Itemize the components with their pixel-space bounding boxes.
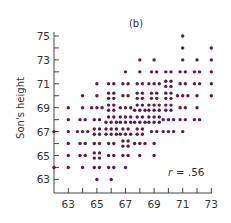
data-point [104,121,107,124]
data-point [150,97,153,100]
data-point [124,70,127,73]
data-point [67,118,70,121]
data-point [107,82,110,85]
data-point [198,118,201,121]
data-point [193,82,196,85]
data-point [150,91,153,94]
data-point [84,154,87,157]
data-point [81,166,84,169]
data-point [133,142,136,145]
data-point [150,130,153,133]
data-point [112,154,115,157]
data-point [100,106,103,109]
data-point [112,103,115,106]
data-point [98,151,101,154]
data-point [95,94,98,97]
data-point [129,133,132,136]
data-point [95,82,98,85]
x-tick-label: 63 [62,198,75,210]
data-point [178,118,181,121]
data-point [184,82,187,85]
data-point [152,142,155,145]
data-point [141,91,144,94]
data-point [141,103,144,106]
data-point [86,130,89,133]
data-point [67,154,70,157]
data-point [181,58,184,61]
data-point [162,130,165,133]
data-point [98,166,101,169]
data-point [158,109,161,112]
data-point [136,127,139,130]
data-point [141,97,144,100]
data-point [141,82,144,85]
data-point [184,106,187,109]
data-point [93,127,96,130]
y-tick-label: 71 [37,78,50,90]
scatter-chart: (b) Son's height 63656769717375 63656769… [0,0,231,223]
data-point [67,166,70,169]
data-point [181,130,184,133]
data-point [138,109,141,112]
data-point [112,166,115,169]
data-point [210,58,213,61]
data-point [133,109,136,112]
data-point [107,91,110,94]
data-point [172,118,175,121]
data-point [155,97,158,100]
data-point [112,82,115,85]
data-point [81,130,84,133]
data-point [210,70,213,73]
data-point [155,130,158,133]
data-point [129,106,132,109]
data-point [176,94,179,97]
data-point [152,109,155,112]
data-point [67,130,70,133]
data-point [164,85,167,88]
data-point [110,178,113,181]
data-point [95,178,98,181]
data-point [78,142,81,145]
data-point [112,115,115,118]
data-point [119,106,122,109]
data-point [129,121,132,124]
data-point [210,82,213,85]
data-point [93,166,96,169]
data-point [76,130,79,133]
data-point [169,85,172,88]
data-point [78,118,81,121]
y-tick-label: 75 [37,30,50,42]
data-point [152,58,155,61]
x-tick-label: 69 [147,198,160,210]
data-point [126,154,129,157]
y-tick-label: 73 [37,54,50,66]
data-point [162,118,165,121]
data-point [164,103,167,106]
data-point [181,46,184,49]
data-point [107,166,110,169]
data-point [98,118,101,121]
data-point [198,70,201,73]
data-point [167,130,170,133]
data-point [95,106,98,109]
data-point [136,91,139,94]
data-point [78,154,81,157]
data-point [178,106,181,109]
data-point [98,156,101,159]
data-point [158,115,161,118]
data-point [178,70,181,73]
data-point [138,142,141,145]
data-point [167,118,170,121]
data-point [210,94,213,97]
data-point [107,154,110,157]
data-point [164,109,167,112]
data-point [138,154,141,157]
data-point [107,115,110,118]
data-point [107,103,110,106]
data-point [67,106,70,109]
data-point [143,109,146,112]
data-point [158,82,161,85]
data-point [90,106,93,109]
data-point [193,118,196,121]
data-point [126,94,129,97]
